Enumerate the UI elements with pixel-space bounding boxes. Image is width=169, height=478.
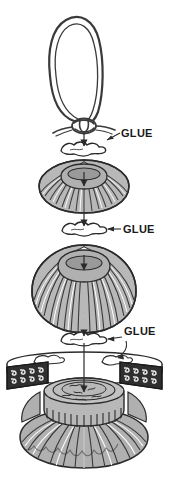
assembly-diagram: GLUE GLUE GLUE xyxy=(0,0,169,478)
glue-label-3: GLUE xyxy=(124,325,156,337)
small-bead-part xyxy=(39,160,129,213)
glue-label-2: GLUE xyxy=(123,223,155,235)
glue-label-1: GLUE xyxy=(121,127,153,139)
diagram-canvas: GLUE GLUE GLUE xyxy=(0,0,169,478)
